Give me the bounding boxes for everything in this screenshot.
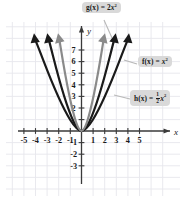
ytick-5: 5 bbox=[71, 69, 75, 78]
callout-g-exp: 2 bbox=[115, 3, 117, 8]
callout-f: f(x) = x2 bbox=[138, 56, 172, 67]
xtick-1: 1 bbox=[91, 136, 95, 145]
x-axis-arrow bbox=[164, 128, 171, 133]
x-axis-label: x bbox=[173, 127, 178, 137]
ytick-7: 7 bbox=[71, 46, 75, 55]
callout-g: g(x) = 2x2 bbox=[82, 2, 121, 13]
ytick--2: -2 bbox=[70, 150, 77, 159]
callout-g-prefix: g(x) bbox=[86, 3, 99, 12]
y-axis-label: y bbox=[86, 26, 91, 36]
xtick-2: 2 bbox=[103, 136, 107, 145]
callout-f-equals: = bbox=[155, 57, 159, 66]
callout-h-equals: = bbox=[149, 94, 153, 103]
xtick-5: 5 bbox=[137, 136, 141, 145]
callout-h: h(x) = 1 2 x2 bbox=[130, 90, 170, 106]
xtick-3: 3 bbox=[114, 136, 118, 145]
callout-h-exp: 2 bbox=[164, 93, 166, 98]
ytick--3: -3 bbox=[70, 162, 77, 171]
callout-f-exp: 2 bbox=[166, 57, 168, 62]
xtick--2: -2 bbox=[55, 136, 62, 145]
xtick-4: 4 bbox=[126, 136, 130, 145]
callout-h-prefix: h(x) bbox=[134, 94, 147, 103]
ytick-3: 3 bbox=[71, 92, 75, 101]
xtick--4: -4 bbox=[32, 136, 39, 145]
grid-lines bbox=[6, 22, 180, 196]
xtick--5: -5 bbox=[20, 136, 27, 145]
callout-f-prefix: f(x) bbox=[142, 57, 153, 66]
figure-container: -5 -4 -3 -2 -1 1 2 3 4 5 7 6 5 4 3 2 -1 … bbox=[0, 0, 194, 200]
callout-g-equals: = bbox=[101, 3, 105, 12]
ytick-4: 4 bbox=[71, 81, 75, 90]
xtick--3: -3 bbox=[44, 136, 51, 145]
ytick-6: 6 bbox=[71, 57, 75, 66]
ytick--1: -1 bbox=[70, 138, 77, 147]
